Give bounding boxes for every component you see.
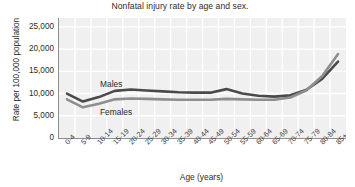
chart-container: Nonfatal injury rate by age and sex. Rat…	[0, 0, 355, 187]
y-tick-label: 25,000	[10, 22, 54, 31]
x-axis-label: Age (years)	[58, 172, 345, 182]
y-axis-tick-labels: 05,00010,00015,00020,00025,000	[10, 18, 54, 144]
y-tick-label: 0	[10, 133, 54, 142]
series-label-females: Females	[100, 107, 132, 117]
plot-svg	[59, 18, 346, 138]
chart-title: Nonfatal injury rate by age and sex.	[60, 1, 300, 11]
series-label-males: Males	[100, 79, 122, 89]
y-tick-label: 10,000	[10, 89, 54, 98]
y-tick-label: 20,000	[10, 44, 54, 53]
y-tick-label: 15,000	[10, 66, 54, 75]
y-tick-label: 5,000	[10, 111, 54, 120]
x-axis-tick-labels: 0-45-910-1415-1920-2425-2930-3435-3940-4…	[58, 140, 348, 170]
